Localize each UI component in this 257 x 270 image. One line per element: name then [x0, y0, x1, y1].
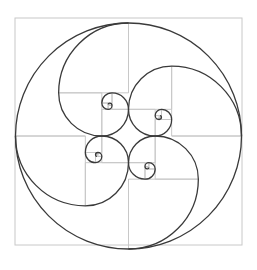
golden-rectangle-grid	[15, 18, 242, 249]
golden-spiral-diagram	[0, 0, 257, 270]
